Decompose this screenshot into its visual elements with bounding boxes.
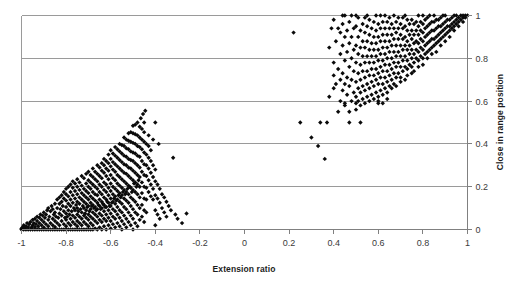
data-point <box>124 217 128 221</box>
data-point <box>405 73 409 77</box>
data-point <box>407 43 411 47</box>
data-point <box>378 13 382 17</box>
data-point <box>358 120 362 124</box>
data-point <box>432 13 436 17</box>
data-point <box>73 189 77 193</box>
data-point <box>365 24 369 28</box>
data-point <box>405 39 409 43</box>
data-point <box>139 116 143 120</box>
data-point <box>392 71 396 75</box>
data-point <box>120 219 124 223</box>
data-point <box>53 202 57 206</box>
data-point <box>363 60 367 64</box>
data-point <box>389 43 393 47</box>
data-point <box>61 204 65 208</box>
data-point <box>343 82 347 86</box>
data-point <box>430 52 434 56</box>
data-point <box>378 88 382 92</box>
data-point <box>421 13 425 17</box>
data-point <box>117 224 121 228</box>
data-point <box>385 20 389 24</box>
data-point <box>403 43 407 47</box>
data-point <box>398 33 402 37</box>
data-point <box>106 223 110 227</box>
data-point <box>325 120 329 124</box>
data-point <box>141 112 145 116</box>
data-point <box>396 37 400 41</box>
data-point <box>347 65 351 69</box>
data-point <box>374 54 378 58</box>
data-point <box>142 220 146 224</box>
data-point <box>137 195 141 199</box>
data-point <box>131 217 135 221</box>
data-point <box>352 69 356 73</box>
data-point <box>169 208 173 212</box>
data-point <box>405 58 409 62</box>
data-point <box>323 157 327 161</box>
x-tick-label: 0.6 <box>372 238 385 248</box>
data-point <box>360 97 364 101</box>
data-point <box>378 75 382 79</box>
data-point <box>109 157 113 161</box>
data-point <box>151 187 155 191</box>
data-point <box>365 54 369 58</box>
data-point <box>332 73 336 77</box>
data-point <box>149 171 153 175</box>
data-point <box>414 28 418 32</box>
data-point <box>372 20 376 24</box>
data-point <box>394 75 398 79</box>
data-point <box>180 221 184 225</box>
data-point <box>343 35 347 39</box>
data-point <box>352 48 356 52</box>
data-point <box>146 178 150 182</box>
y-tick-label: 1 <box>476 11 481 21</box>
data-point <box>175 217 179 221</box>
data-point <box>383 26 387 30</box>
data-point <box>360 54 364 58</box>
data-point <box>376 82 380 86</box>
data-point <box>392 13 396 17</box>
data-point <box>106 152 110 156</box>
data-point <box>358 90 362 94</box>
data-point <box>106 216 110 220</box>
data-point <box>135 224 139 228</box>
data-point <box>143 109 147 113</box>
x-tick-label: 1 <box>465 238 470 248</box>
data-point <box>356 52 360 56</box>
data-point <box>338 99 342 103</box>
data-point <box>162 195 166 199</box>
data-point <box>372 48 376 52</box>
data-point <box>71 201 75 205</box>
data-point <box>354 80 358 84</box>
data-point <box>291 30 295 34</box>
data-point <box>146 166 150 170</box>
data-point <box>434 50 438 54</box>
data-point <box>129 213 133 217</box>
data-point <box>68 217 72 221</box>
data-point <box>374 78 378 82</box>
data-point <box>122 222 126 226</box>
data-point <box>410 28 414 32</box>
data-point <box>164 199 168 203</box>
data-point <box>367 60 371 64</box>
data-point <box>124 225 128 229</box>
data-point <box>109 219 113 223</box>
data-point <box>149 159 153 163</box>
data-point <box>146 190 150 194</box>
data-point <box>155 182 159 186</box>
data-point <box>336 26 340 30</box>
data-point <box>58 207 62 211</box>
data-point <box>403 54 407 58</box>
data-point <box>376 71 380 75</box>
data-point <box>421 63 425 67</box>
data-point <box>383 75 387 79</box>
data-point <box>122 213 126 217</box>
data-point <box>329 26 333 30</box>
data-point <box>336 67 340 71</box>
data-point <box>332 86 336 90</box>
data-point <box>394 30 398 34</box>
data-point <box>151 197 155 201</box>
data-point <box>383 86 387 90</box>
data-point <box>68 190 72 194</box>
data-point <box>153 193 157 197</box>
